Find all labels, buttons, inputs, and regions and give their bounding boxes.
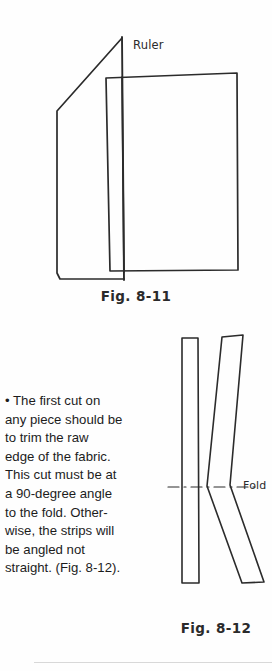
text-line: wise, the strips will xyxy=(5,522,141,541)
fabric-panel-outline xyxy=(106,73,238,271)
page-bottom-divider xyxy=(34,662,272,663)
figure-8-11-caption: Fig. 8-11 xyxy=(0,288,272,304)
figure-8-12-caption: Fig. 8-12 xyxy=(160,620,272,636)
text-line: to trim the raw xyxy=(5,429,141,448)
text-line: straight. (Fig. 8-12). xyxy=(5,559,141,578)
fold-label: Fold xyxy=(243,479,267,492)
ruler-line xyxy=(122,37,124,280)
text-line: • The first cut on xyxy=(5,392,141,411)
angled-strip-outline xyxy=(207,335,264,583)
text-line: edge of the fabric. xyxy=(5,448,141,467)
text-line: a 90-degree angle xyxy=(5,485,141,504)
text-line: to the fold. Other- xyxy=(5,504,141,523)
straight-strip-outline xyxy=(182,338,199,583)
instruction-text-block: • The first cut on any piece should be t… xyxy=(5,392,141,578)
fabric-underlayer-outline xyxy=(57,38,124,279)
text-line: be angled not xyxy=(5,541,141,560)
instruction-paragraph: • The first cut on any piece should be t… xyxy=(5,392,141,578)
page-canvas: Ruler Fig. 8-11 • The first cut on any p… xyxy=(0,0,272,671)
ruler-label: Ruler xyxy=(133,38,164,52)
text-line: any piece should be xyxy=(5,411,141,430)
text-line: This cut must be at xyxy=(5,466,141,485)
